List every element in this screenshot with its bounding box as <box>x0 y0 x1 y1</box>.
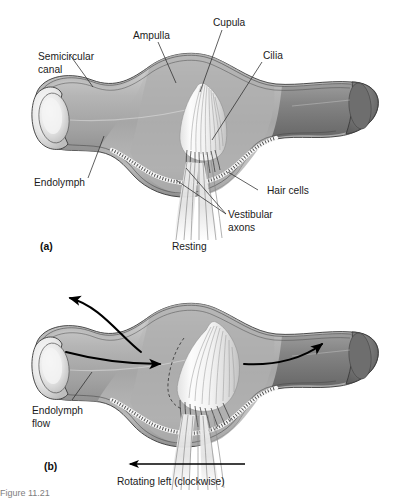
panel-a-caption: Resting <box>172 241 207 252</box>
label-semicircular-canal-line1: Semicircular <box>38 51 95 62</box>
label-endolymph: Endolymph <box>34 177 85 188</box>
panel-b-caption: Rotating left (clockwise) <box>117 476 225 487</box>
label-hair-cells: Hair cells <box>267 185 309 196</box>
figure-illustration: Semicircular canal Ampulla Cupula Cilia … <box>0 0 394 498</box>
label-cupula: Cupula <box>213 17 246 28</box>
label-ampulla: Ampulla <box>133 30 170 41</box>
panel-b-illustration: Endolymph flow (b) Rotating left (clockw… <box>32 298 378 490</box>
panel-a-illustration: Semicircular canal Ampulla Cupula Cilia … <box>32 17 378 252</box>
label-endolymph-flow-line2: flow <box>32 418 51 429</box>
panel-a-label: (a) <box>40 241 53 252</box>
label-vestibular-axons-line2: axons <box>228 222 255 233</box>
label-cilia: Cilia <box>263 50 283 61</box>
label-vestibular-axons-line1: Vestibular <box>228 209 273 220</box>
panel-b-label: (b) <box>44 461 57 472</box>
figure-container: Semicircular canal Ampulla Cupula Cilia … <box>0 0 394 498</box>
label-semicircular-canal-line2: canal <box>38 64 62 75</box>
leader-hair-cells <box>228 172 258 190</box>
cropped-figure-caption: Figure 11.21 <box>0 489 70 498</box>
label-endolymph-flow-line1: Endolymph <box>32 405 83 416</box>
